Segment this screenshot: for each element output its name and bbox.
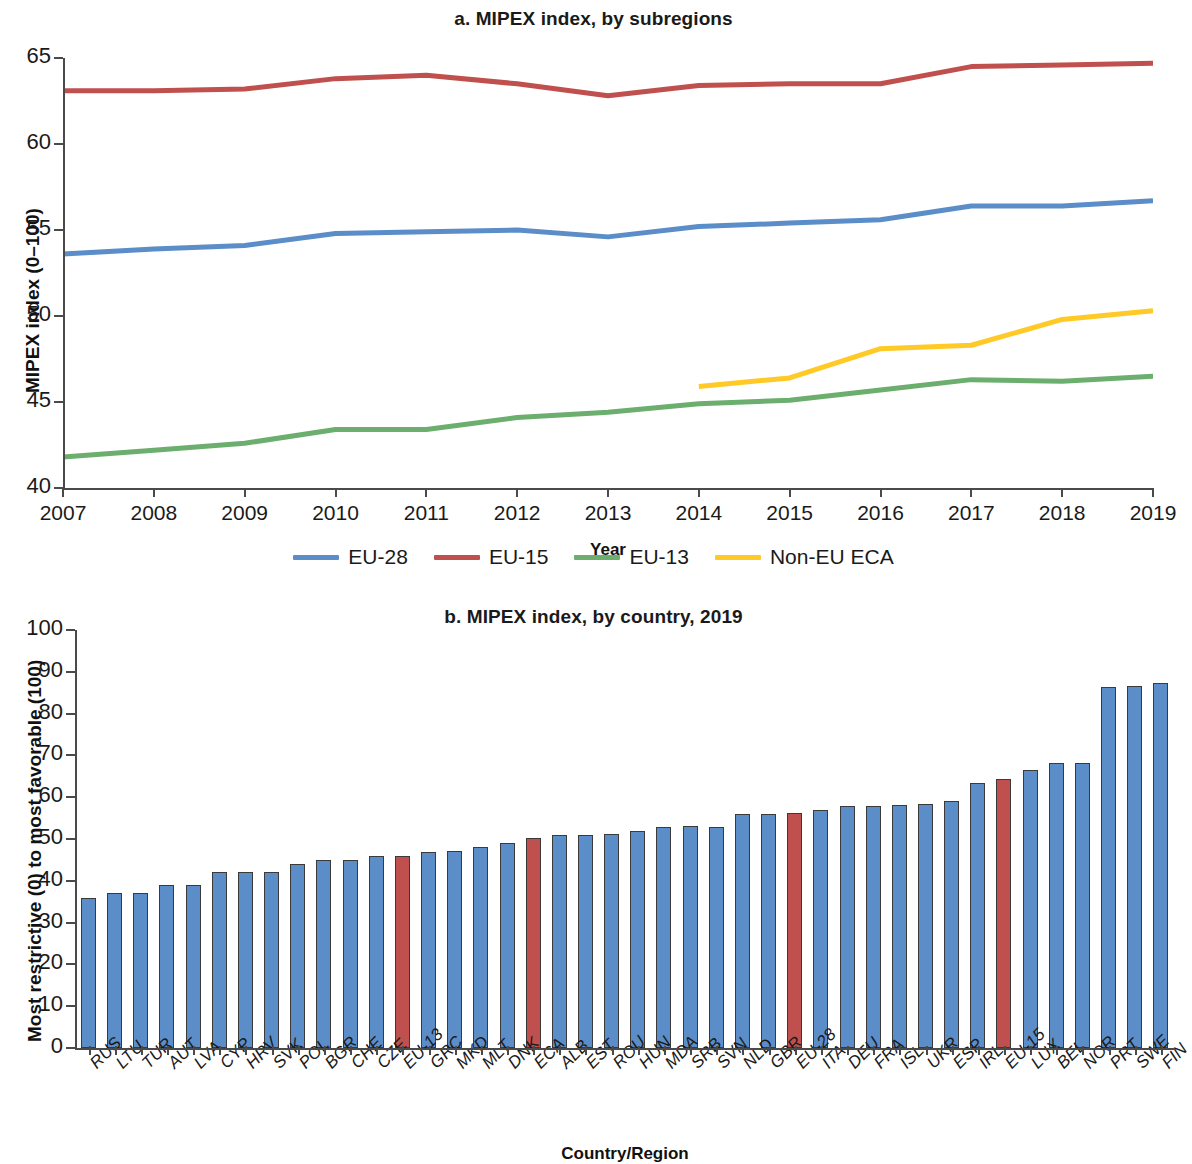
panel-a-x-tick: [607, 488, 609, 497]
bar-category-swe: SWE: [1127, 1054, 1142, 1138]
bar-irl[interactable]: [970, 783, 985, 1048]
line-series-eu-13: [63, 376, 1153, 457]
bar-ltu[interactable]: [107, 893, 122, 1048]
bar-fin[interactable]: [1153, 683, 1168, 1048]
bar-cyp[interactable]: [212, 872, 227, 1048]
bar-est[interactable]: [578, 835, 593, 1048]
panel-b-plot-area: [75, 630, 1175, 1048]
bar-category-aut: AUT: [159, 1054, 174, 1138]
legend-item-eu-15[interactable]: EU-15: [434, 545, 549, 569]
panel-a-title: a. MIPEX index, by subregions: [0, 0, 1187, 30]
panel-b-y-tick-label: 70: [3, 742, 63, 764]
bar-gbr[interactable]: [761, 814, 776, 1048]
bar-hun[interactable]: [630, 831, 645, 1048]
bar-esp[interactable]: [944, 801, 959, 1048]
bar-grc[interactable]: [421, 852, 436, 1049]
panel-a-x-tick: [698, 488, 700, 497]
panel-a-x-tick-label: 2012: [472, 502, 562, 523]
legend-line-swatch-icon: [574, 555, 620, 560]
bar-mkd[interactable]: [447, 851, 462, 1048]
bar-rus[interactable]: [81, 898, 96, 1049]
bar-category-dnk: DNK: [500, 1054, 515, 1138]
legend-item-eu-13[interactable]: EU-13: [574, 545, 689, 569]
panel-a-x-tick: [1152, 488, 1154, 497]
bar-hrv[interactable]: [238, 872, 253, 1048]
bar-category-deu: DEU: [840, 1054, 855, 1138]
bar-category-rou: ROU: [604, 1054, 619, 1138]
bar-category-ita: ITA: [813, 1054, 828, 1138]
panel-b-y-tick: [66, 629, 75, 631]
bar-eca[interactable]: [526, 838, 541, 1048]
bar-category-lva: LVA: [186, 1054, 201, 1138]
bar-category-eu-15: EU-15: [996, 1054, 1011, 1138]
panel-a-y-tick-label: 50: [0, 303, 51, 325]
bar-svn[interactable]: [709, 827, 724, 1049]
bar-srb[interactable]: [683, 826, 698, 1048]
bar-pol[interactable]: [290, 864, 305, 1048]
bar-eu-13[interactable]: [395, 856, 410, 1048]
bar-tur[interactable]: [133, 893, 148, 1048]
panel-a-x-tick: [335, 488, 337, 497]
bar-category-nor: NOR: [1075, 1054, 1090, 1138]
bar-mlt[interactable]: [473, 847, 488, 1048]
panel-a-y-tick: [54, 229, 63, 231]
bar-svk[interactable]: [264, 872, 279, 1048]
panel-b-y-tick: [66, 1047, 75, 1049]
bar-lux[interactable]: [1023, 770, 1038, 1048]
legend-label: EU-13: [629, 545, 689, 569]
bar-bel[interactable]: [1049, 763, 1064, 1048]
bar-aut[interactable]: [159, 885, 174, 1048]
panel-a-x-tick-label: 2010: [291, 502, 381, 523]
bar-category-eu-28: EU-28: [787, 1054, 802, 1138]
bar-category-isl: ISL: [892, 1054, 907, 1138]
bar-category-irl: IRL: [970, 1054, 985, 1138]
panel-b-y-tick: [66, 713, 75, 715]
bar-fra[interactable]: [866, 806, 881, 1048]
panel-b-y-tick-label: 50: [3, 826, 63, 848]
panel-b-y-tick-label: 30: [3, 910, 63, 932]
bar-category-bgr: BGR: [316, 1054, 331, 1138]
bar-isl[interactable]: [892, 805, 907, 1048]
bar-dnk[interactable]: [500, 843, 515, 1048]
bar-lva[interactable]: [186, 885, 201, 1048]
bar-rou[interactable]: [604, 834, 619, 1048]
bar-ita[interactable]: [813, 810, 828, 1048]
legend-item-eu-28[interactable]: EU-28: [293, 545, 408, 569]
bar-alb[interactable]: [552, 835, 567, 1048]
bar-category-alb: ALB: [552, 1054, 567, 1138]
bar-category-tur: TUR: [133, 1054, 148, 1138]
bar-eu-15[interactable]: [996, 779, 1011, 1048]
bar-category-hun: HUN: [630, 1054, 645, 1138]
panel-a-y-tick: [54, 57, 63, 59]
panel-b-y-tick-label: 90: [3, 659, 63, 681]
bar-deu[interactable]: [840, 806, 855, 1048]
bar-category-cze: CZE: [369, 1054, 384, 1138]
panel-a-plot-area: [63, 58, 1153, 488]
bar-cze[interactable]: [369, 856, 384, 1048]
bar-prt[interactable]: [1101, 687, 1116, 1048]
panel-b-y-tick-label: 40: [3, 868, 63, 890]
bar-nld[interactable]: [735, 814, 750, 1048]
bar-category-che: CHE: [343, 1054, 358, 1138]
legend-label: EU-15: [489, 545, 549, 569]
bar-che[interactable]: [343, 860, 358, 1048]
panel-a-y-axis-line: [63, 58, 65, 488]
bar-category-mda: MDA: [656, 1054, 671, 1138]
panel-a-x-tick: [789, 488, 791, 497]
bar-swe[interactable]: [1127, 686, 1142, 1048]
bar-nor[interactable]: [1075, 763, 1090, 1049]
legend-item-non-eu-eca[interactable]: Non-EU ECA: [715, 545, 894, 569]
bar-ukr[interactable]: [918, 804, 933, 1048]
bar-mda[interactable]: [656, 827, 671, 1049]
panel-a-y-tick: [54, 401, 63, 403]
bar-eu-28[interactable]: [787, 813, 802, 1048]
legend-label: Non-EU ECA: [770, 545, 894, 569]
bar-category-prt: PRT: [1101, 1054, 1116, 1138]
legend-line-swatch-icon: [293, 555, 339, 560]
line-plot-a: MIPEX index (0–100) Year 404550556065 20…: [0, 34, 1187, 534]
bar-bgr[interactable]: [316, 860, 331, 1048]
bar-category-mkd: MKD: [447, 1054, 462, 1138]
panel-a-x-tick: [970, 488, 972, 497]
panel-b-x-axis-title: Country/Region: [75, 1144, 1175, 1164]
panel-a-series-svg: [63, 58, 1153, 488]
